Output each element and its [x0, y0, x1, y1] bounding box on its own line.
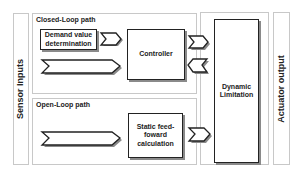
controller-to-limitation-arrow-icon	[189, 36, 210, 50]
controller-block: Controller	[127, 29, 185, 80]
actuator-output-label: Actuator output	[276, 39, 288, 139]
closed-loop-title: Closed-Loop path	[36, 16, 96, 23]
demand-to-controller-arrow-icon	[101, 33, 123, 46]
dynamic-limitation-block: Dynamic Limitation	[214, 19, 259, 163]
static-feedforward-block: Static feed-foward calculation	[128, 113, 183, 158]
limitation-to-controller-arrow-icon	[188, 59, 209, 74]
static-to-limitation-arrow-icon	[189, 128, 212, 143]
open-loop-title: Open-Loop path	[36, 101, 90, 108]
sensor-inputs-label: Sensor Inputs	[15, 39, 27, 139]
sensor-to-controller-arrow-icon	[42, 60, 122, 75]
sensor-to-static-arrow-icon	[42, 132, 122, 147]
demand-value-block: Demand value determination	[40, 29, 97, 50]
